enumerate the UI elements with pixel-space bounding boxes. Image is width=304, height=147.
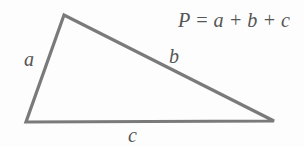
side-b-label: b [169,45,179,67]
triangle-shape [26,15,274,122]
side-a-label: a [24,48,34,70]
triangle-figure: a b c P = a + b + c [0,0,304,147]
perimeter-formula: P = a + b + c [177,9,290,31]
triangle-diagram: a b c P = a + b + c [0,0,304,147]
side-c-label: c [128,124,137,146]
